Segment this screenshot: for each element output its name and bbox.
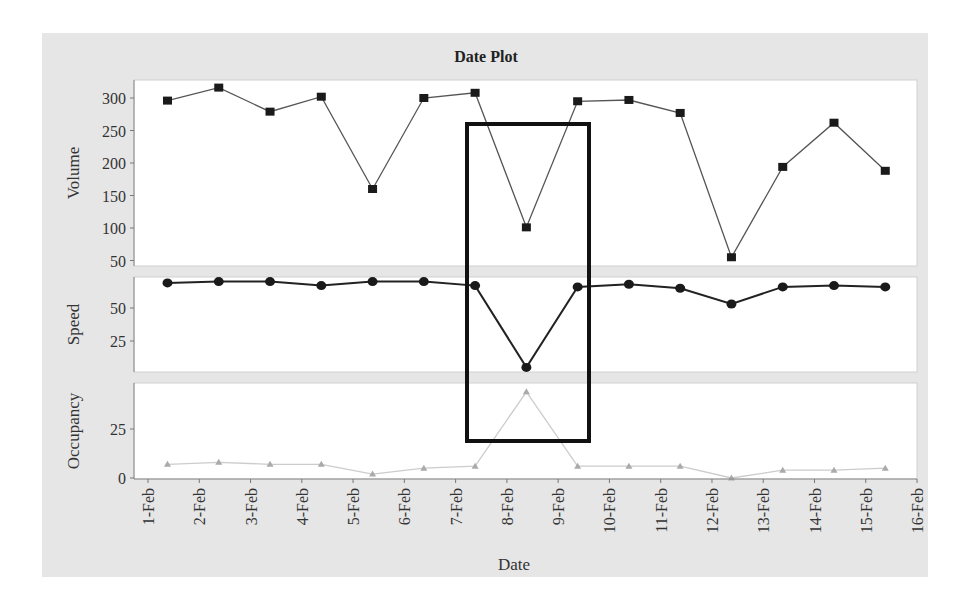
data-point — [522, 223, 531, 231]
x-axis: 1-Feb2-Feb3-Feb4-Feb5-Feb6-Feb7-Feb8-Feb… — [134, 479, 926, 574]
x-tick-label: 16-Feb — [909, 488, 926, 533]
x-tick-label: 7-Feb — [448, 488, 465, 525]
x-tick-label: 4-Feb — [294, 488, 311, 525]
y-tick-label: 25 — [110, 333, 126, 350]
y-tick-label: 50 — [110, 253, 126, 270]
data-point — [266, 108, 275, 116]
y-tick-label: 50 — [110, 300, 126, 317]
data-point — [471, 89, 480, 97]
panel-occupancy: 025Occupancy — [64, 383, 917, 487]
data-point — [727, 253, 736, 261]
x-tick-label: 8-Feb — [499, 488, 516, 525]
data-point — [624, 96, 633, 104]
x-tick-label: 1-Feb — [140, 488, 157, 525]
x-tick-label: 9-Feb — [550, 488, 567, 525]
data-point — [676, 109, 685, 117]
data-point — [163, 97, 172, 105]
y-axis-title: Speed — [64, 303, 83, 345]
data-point — [573, 97, 582, 105]
data-point — [881, 167, 890, 175]
data-point — [829, 119, 838, 127]
y-tick-label: 300 — [102, 90, 126, 107]
data-point — [726, 300, 736, 309]
x-axis-title: Date — [498, 555, 530, 574]
data-point — [829, 281, 839, 290]
data-point — [368, 185, 377, 193]
y-tick-label: 100 — [102, 220, 126, 237]
data-point — [778, 282, 788, 291]
y-axis-title: Volume — [64, 147, 83, 200]
x-tick-label: 10-Feb — [601, 488, 618, 533]
x-tick-label: 2-Feb — [191, 488, 208, 525]
x-tick-label: 3-Feb — [243, 488, 260, 525]
data-point — [778, 163, 787, 171]
data-point — [521, 363, 531, 372]
y-tick-label: 250 — [102, 123, 126, 140]
y-tick-label: 150 — [102, 188, 126, 205]
date-plot-chart: 50100150200250300Volume2550Speed025Occup… — [0, 0, 972, 610]
y-tick-label: 0 — [118, 470, 126, 487]
x-tick-label: 15-Feb — [858, 488, 875, 533]
data-point — [162, 278, 172, 287]
data-point — [624, 280, 634, 289]
data-point — [675, 284, 685, 293]
y-tick-label: 25 — [110, 421, 126, 438]
data-point — [880, 282, 890, 291]
data-point — [419, 94, 428, 102]
x-tick-label: 14-Feb — [807, 488, 824, 533]
x-tick-label: 6-Feb — [396, 488, 413, 525]
x-tick-label: 5-Feb — [345, 488, 362, 525]
panel-speed: 2550Speed — [64, 277, 917, 372]
y-axis-title: Occupancy — [64, 392, 83, 469]
data-point — [214, 84, 223, 92]
panel-volume: 50100150200250300Volume — [64, 80, 917, 270]
data-point — [214, 277, 224, 286]
data-point — [265, 277, 275, 286]
data-point — [316, 281, 326, 290]
y-tick-label: 200 — [102, 155, 126, 172]
x-tick-label: 12-Feb — [704, 488, 721, 533]
x-tick-label: 11-Feb — [653, 488, 670, 533]
data-point — [368, 277, 378, 286]
data-point — [419, 277, 429, 286]
data-point — [317, 93, 326, 101]
data-point — [470, 281, 480, 290]
x-tick-label: 13-Feb — [755, 488, 772, 533]
data-point — [573, 282, 583, 291]
